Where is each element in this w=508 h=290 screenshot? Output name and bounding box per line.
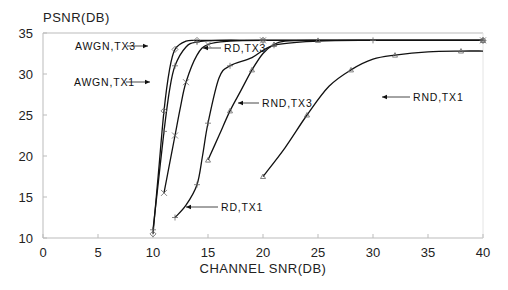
plus-marker — [194, 182, 200, 188]
x-tick-label: 20 — [256, 245, 270, 260]
label-rd-tx1: RD,TX1 — [221, 201, 263, 213]
arrowhead-icon — [186, 205, 191, 209]
plus-marker — [150, 227, 156, 233]
plus-marker — [205, 120, 211, 126]
psnr-chart: 0510152025303540101520253035 PSNR(DB) CH… — [0, 0, 508, 290]
x-tick-label: 30 — [366, 245, 380, 260]
arrowhead-icon — [238, 101, 243, 105]
arrowhead-icon — [143, 44, 148, 48]
series-line-awgn-tx1 — [153, 40, 483, 230]
x-tick-label: 10 — [146, 245, 160, 260]
arrowhead-icon — [382, 95, 387, 99]
plus-marker — [172, 63, 178, 69]
x-tick-label: 15 — [201, 245, 215, 260]
y-tick-label: 35 — [19, 26, 33, 41]
y-tick-label: 20 — [19, 149, 33, 164]
plus-marker — [227, 63, 233, 69]
x-tick-label: 0 — [39, 245, 46, 260]
series-line-rnd-tx1 — [263, 51, 483, 177]
arrowhead-icon — [145, 80, 150, 84]
x-tick-label: 40 — [476, 245, 490, 260]
y-axis-title: PSNR(DB) — [43, 10, 110, 25]
axis-ticks: 0510152025303540101520253035 — [19, 26, 491, 260]
plus-marker — [370, 37, 376, 43]
label-awgn-tx3: AWGN,TX3 — [75, 40, 136, 52]
x-tick-label: 25 — [311, 245, 325, 260]
label-rd-tx3: RD,TX3 — [224, 42, 266, 54]
label-rnd-tx1: RND,TX1 — [413, 91, 464, 103]
annotation-leaders — [126, 44, 410, 209]
series-line-rd-tx3 — [164, 40, 483, 193]
series-lines — [153, 40, 483, 234]
y-tick-label: 10 — [19, 231, 33, 246]
x-axis-title: CHANNEL SNR(DB) — [200, 261, 327, 276]
y-tick-label: 30 — [19, 67, 33, 82]
x-tick-label: 35 — [421, 245, 435, 260]
y-tick-label: 15 — [19, 190, 33, 205]
label-awgn-tx1: AWGN,TX1 — [74, 76, 135, 88]
label-rnd-tx3: RND,TX3 — [262, 97, 313, 109]
series-line-awgn-tx3 — [153, 40, 483, 234]
y-tick-label: 25 — [19, 108, 33, 123]
x-tick-label: 5 — [94, 245, 101, 260]
